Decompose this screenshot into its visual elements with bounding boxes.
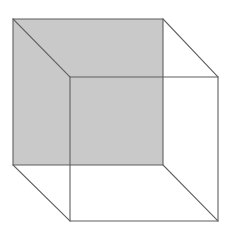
- edge-top-right: [163, 19, 218, 77]
- figure-canvas: [0, 0, 234, 240]
- edge-bottom-right: [163, 165, 218, 221]
- edge-bottom-left: [13, 165, 70, 221]
- cube-diagram: [0, 0, 234, 240]
- back-face-shaded-region: [13, 19, 163, 165]
